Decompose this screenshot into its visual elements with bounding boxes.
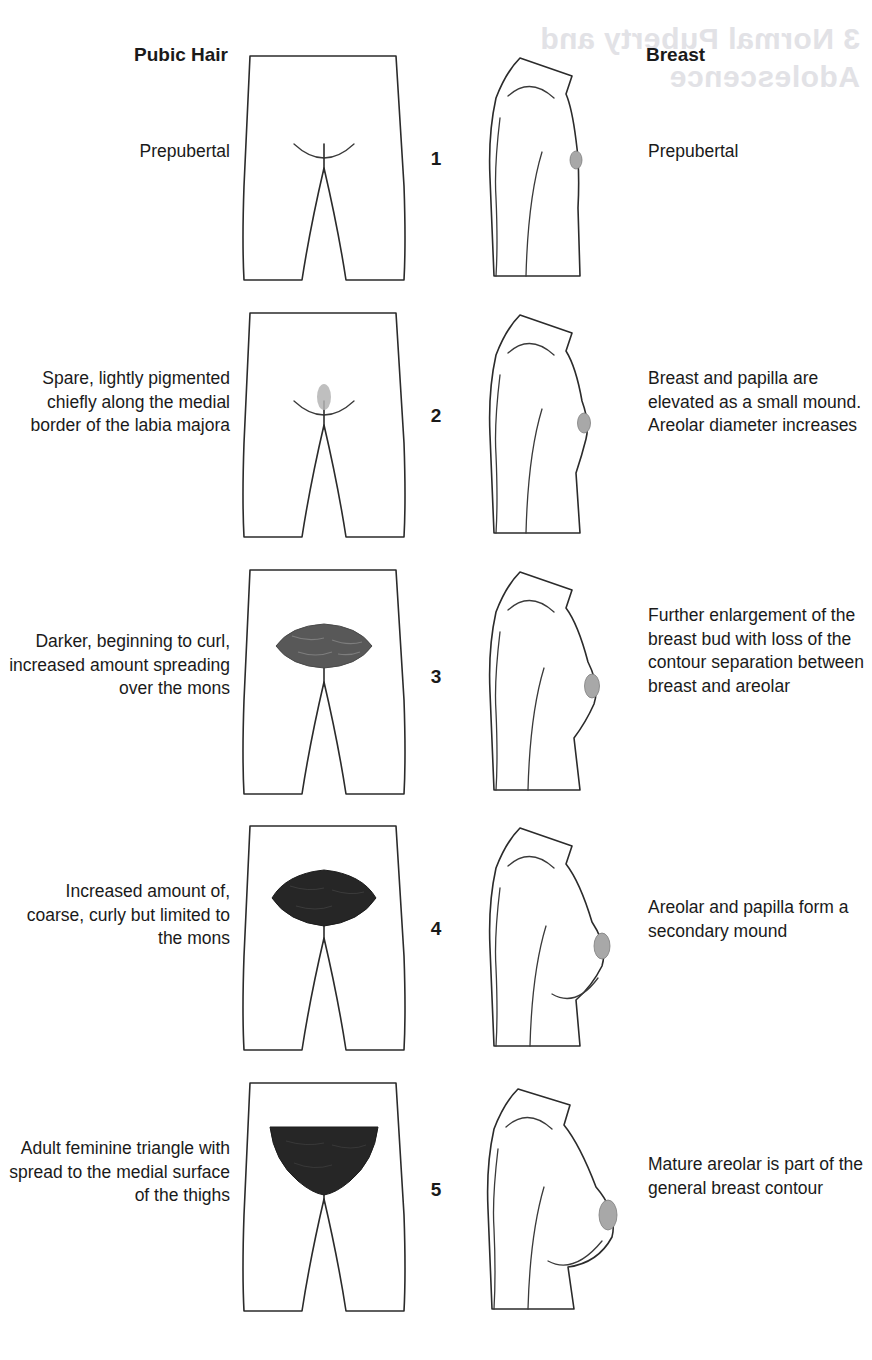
breast-description-2: Breast and papilla are elevated as a sma…	[648, 367, 866, 438]
pubic-hair-figure-5	[228, 1075, 418, 1320]
breast-description-3: Further enlargement of the breast bud wi…	[648, 604, 866, 698]
stage-row-2: Spare, lightly pigmented chiefly along t…	[0, 305, 872, 555]
breast-description-4: Areolar and papilla form a secondary mou…	[648, 896, 866, 943]
breast-figure-4	[456, 818, 642, 1058]
stage-number-4: 4	[414, 918, 458, 940]
breast-figure-3	[456, 562, 642, 802]
stage-row-3: Darker, beginning to curl, increased amo…	[0, 562, 872, 812]
pubic-hair-description-3: Darker, beginning to curl, increased amo…	[8, 630, 230, 701]
header-breast: Breast	[646, 44, 866, 66]
pubic-hair-figure-1	[228, 48, 418, 288]
stage-row-1: Prepubertal 1 Prepubertal	[0, 48, 872, 298]
column-headers: Pubic Hair Breast	[0, 44, 872, 74]
stage-number-3: 3	[414, 666, 458, 688]
pubic-hair-figure-3	[228, 562, 418, 802]
stage-row-5: Adult feminine triangle with spread to t…	[0, 1075, 872, 1330]
breast-description-1: Prepubertal	[648, 140, 866, 164]
pubic-hair-description-1: Prepubertal	[8, 140, 230, 164]
breast-figure-2	[456, 305, 642, 545]
header-pubic-hair: Pubic Hair	[0, 44, 228, 66]
stage-number-1: 1	[414, 148, 458, 170]
breast-figure-1	[456, 48, 642, 288]
stage-row-4: Increased amount of, coarse, curly but l…	[0, 818, 872, 1068]
pubic-hair-description-2: Spare, lightly pigmented chiefly along t…	[8, 367, 230, 438]
stage-number-2: 2	[414, 405, 458, 427]
pubic-hair-description-5: Adult feminine triangle with spread to t…	[8, 1137, 230, 1208]
breast-description-5: Mature areolar is part of the general br…	[648, 1153, 866, 1200]
stage-number-5: 5	[414, 1179, 458, 1201]
pubic-hair-description-4: Increased amount of, coarse, curly but l…	[8, 880, 230, 951]
pubic-hair-figure-4	[228, 818, 418, 1058]
breast-figure-5	[456, 1075, 642, 1320]
pubic-hair-figure-2	[228, 305, 418, 545]
